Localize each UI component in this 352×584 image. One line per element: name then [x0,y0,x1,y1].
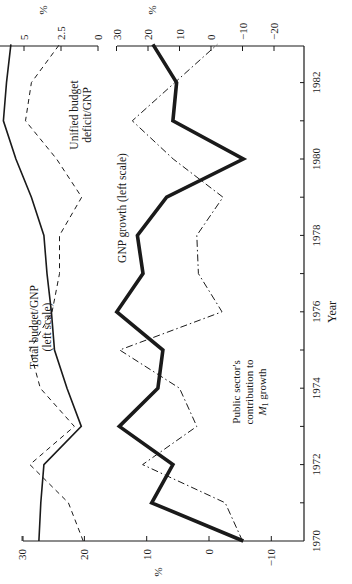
left-axis-tick-label: 10 [141,549,153,561]
right-inner-unit: % [146,5,158,14]
m1-label-2: contribution to [243,359,255,425]
left-axis-tick-label: 30 [16,549,28,561]
deficit-axis-tick-label: 0 [92,34,104,40]
total-budget-label: Total budget/GNP [28,285,41,369]
time-axis-tick-label: 1976 [310,300,322,323]
left-axis-tick-label: 20 [78,549,90,561]
time-axis-tick-label: 1972 [310,454,322,476]
time-axis-tick-label: 1970 [310,530,322,553]
left-axis-unit: % [152,567,164,576]
m1-axis-tick-label: 10 [174,29,186,41]
deficit-label-2: deficit/GNP [81,87,93,143]
m1-label-1: Public sector's [230,360,242,423]
gnp-growth-label: GNP growth (left scale) [116,153,129,263]
deficit-axis-tick-label: 2.5 [55,26,67,40]
m1-label-3: M1 growth [256,368,270,417]
x-axis-title: Year [325,301,339,323]
series-line-2 [117,44,244,541]
deficit-axis-tick-label: 5 [18,34,30,40]
m1-axis-tick-label: −10 [237,22,249,40]
time-axis-tick-label: 1980 [310,148,322,171]
time-axis-tick-label: 1978 [310,224,322,247]
m1-axis-tick-label: 30 [111,29,123,41]
m1-axis-tick-label: −20 [268,22,280,40]
total-budget-scale-label: (left scale) [41,302,54,351]
annotations: Total budget/GNP (left scale) Unified bu… [28,5,339,576]
left-axis-tick-label: −10 [265,549,277,567]
m1-axis-tick-label: 0 [205,34,217,40]
rotated-line-chart: 3020100−10197019721974197619781980198252… [0,0,352,584]
series-line-3 [120,44,243,541]
right-outer-unit: % [37,5,49,14]
time-axis-tick-label: 1974 [310,377,322,400]
left-axis-tick-label: 0 [203,549,215,555]
m1-axis-tick-label: 20 [142,29,154,41]
time-axis-tick-label: 1982 [310,72,322,94]
deficit-label: Unified budget [68,80,81,150]
